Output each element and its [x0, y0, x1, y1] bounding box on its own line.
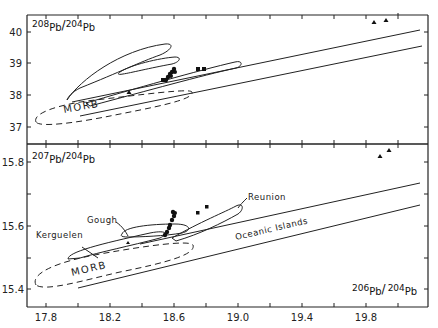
- top-oi-lower-line: [80, 46, 422, 116]
- y-tick-15-4: 15.4: [2, 284, 24, 295]
- bottom-morb-label: MORB: [70, 259, 108, 278]
- bottom-y-tick-labels: 15.8 15.6 15.4: [2, 157, 24, 295]
- top-y-axis-title: 208Pb/204Pb: [32, 18, 95, 33]
- x-axis-title: 206Pb/204Pb: [352, 282, 417, 297]
- x-tick-18-2: 18.2: [99, 312, 121, 323]
- y-tick-39: 39: [9, 58, 22, 69]
- reunion-label: Reunion: [248, 192, 286, 202]
- top-morb-envelope: [36, 91, 193, 125]
- x-tick-19-8: 19.8: [355, 312, 377, 323]
- top-morb-label: MORB: [62, 98, 100, 115]
- x-tick-19-4: 19.4: [291, 312, 313, 323]
- oceanic-islands-label: Oceanic Islands: [234, 216, 309, 242]
- x-tick-19-0: 19.0: [227, 312, 249, 323]
- x-tick-18-6: 18.6: [163, 312, 185, 323]
- y-tick-15-8: 15.8: [2, 157, 24, 168]
- bottom-oi-lower-line: [78, 205, 420, 288]
- bottom-reunion-envelope: [172, 205, 242, 241]
- pb-isotope-chart: 40 39 38 37 15.8 15.6 15.4 17.8 18.2 18.…: [0, 0, 438, 328]
- bottom-y-axis-title: 207Pb/204Pb: [32, 150, 95, 165]
- y-tick-15-6: 15.6: [2, 221, 24, 232]
- bottom-gough-envelope: [121, 224, 188, 237]
- y-tick-40: 40: [9, 27, 22, 38]
- kerguelen-label: Kerguelen: [36, 230, 83, 240]
- top-panel-fields: [36, 30, 422, 124]
- x-tick-17-8: 17.8: [35, 312, 57, 323]
- gough-label: Gough: [87, 215, 117, 225]
- top-envelope-large: [67, 44, 171, 100]
- y-tick-38: 38: [9, 90, 22, 101]
- top-y-tick-labels: 40 39 38 37: [9, 27, 22, 133]
- y-tick-37: 37: [9, 122, 22, 133]
- top-oi-upper-line: [72, 30, 420, 102]
- x-tick-labels: 17.8 18.2 18.6 19.0 19.4 19.8: [35, 312, 377, 323]
